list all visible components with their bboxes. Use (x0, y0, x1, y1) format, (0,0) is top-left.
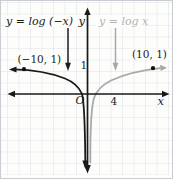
equation-label-log-neg-x: y = log (−x) (5, 15, 73, 28)
point-label-left: (−10, 1) (18, 53, 62, 65)
x-axis-label: x (158, 94, 165, 108)
origin-label: O (76, 94, 85, 107)
x-tick-label-4: 4 (111, 95, 118, 107)
point-label-right: (10, 1) (132, 48, 167, 60)
point-dot-left (22, 67, 26, 71)
log-function-graph: y = log (−x) y y = log x (−10, 1) (10, 1… (0, 0, 173, 179)
equation-label-log-x: y = log x (98, 15, 149, 28)
point-dot-right (151, 66, 155, 70)
graph-svg: y = log (−x) y y = log x (−10, 1) (10, 1… (1, 1, 172, 178)
y-axis-label: y (78, 14, 86, 28)
y-tick-label-1: 1 (81, 59, 88, 71)
